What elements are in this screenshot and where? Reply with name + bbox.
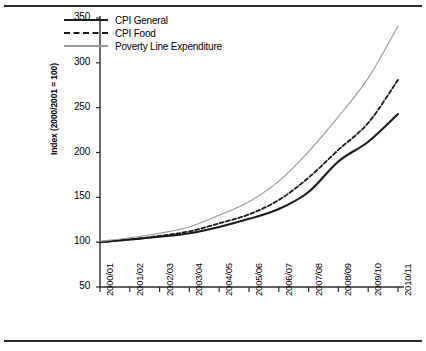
x-tick-label: 2003/04 bbox=[193, 263, 204, 296]
x-tick-label: 2002/03 bbox=[164, 263, 175, 296]
x-tick-label: 2000/01 bbox=[104, 263, 115, 296]
series-line bbox=[100, 26, 398, 241]
legend-swatch-dashed-icon bbox=[64, 28, 108, 38]
y-tick-label: 150 bbox=[56, 190, 90, 201]
x-tick-label: 2006/07 bbox=[283, 263, 294, 296]
x-tick-label: 2010/11 bbox=[402, 264, 413, 296]
y-tick-label: 100 bbox=[56, 235, 90, 246]
legend-item-cpi-general: CPI General bbox=[64, 14, 222, 26]
y-tick-label: 50 bbox=[56, 280, 90, 291]
legend-item-cpi-food: CPI Food bbox=[64, 27, 222, 39]
y-tick-label: 250 bbox=[56, 101, 90, 112]
legend-label: CPI Food bbox=[115, 28, 156, 39]
chart-legend: CPI General CPI Food Poverty Line Expend… bbox=[64, 14, 222, 53]
legend-swatch-solid-icon bbox=[64, 15, 108, 25]
legend-swatch-thin-icon bbox=[64, 41, 108, 51]
legend-item-poverty-line-expenditure: Poverty Line Expenditure bbox=[64, 40, 222, 52]
x-tick-label: 2001/02 bbox=[134, 263, 145, 296]
x-tick-label: 2004/05 bbox=[223, 263, 234, 296]
legend-label: CPI General bbox=[115, 15, 168, 26]
x-tick-label: 2008/09 bbox=[342, 263, 353, 296]
y-tick-label: 300 bbox=[56, 56, 90, 67]
x-tick-label: 2007/08 bbox=[313, 263, 324, 296]
series-line bbox=[100, 114, 398, 242]
x-tick-label: 2009/10 bbox=[372, 263, 383, 296]
x-tick-label: 2005/06 bbox=[253, 263, 264, 296]
y-tick-label: 200 bbox=[56, 146, 90, 157]
legend-label: Poverty Line Expenditure bbox=[115, 41, 222, 52]
chart-figure: Index (2000/2001 = 100) 5010015020025030… bbox=[0, 0, 426, 351]
